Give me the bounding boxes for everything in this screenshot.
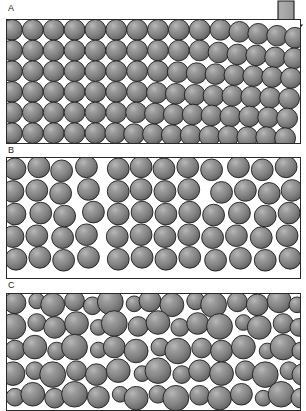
sphere <box>43 123 64 143</box>
sphere <box>179 247 201 269</box>
sphere <box>139 294 161 312</box>
sphere <box>76 224 98 246</box>
sphere <box>107 158 129 180</box>
sphere <box>145 358 171 384</box>
sphere <box>203 85 224 106</box>
sphere <box>7 181 24 203</box>
sphere <box>30 202 52 224</box>
sphere <box>22 82 43 103</box>
sphere <box>173 366 191 384</box>
sphere <box>127 82 148 103</box>
sphere <box>168 20 189 40</box>
sphere <box>190 385 210 405</box>
sphere <box>267 294 291 313</box>
sphere <box>246 294 268 316</box>
sphere <box>270 334 296 360</box>
sphere <box>64 20 85 40</box>
sphere <box>127 61 148 82</box>
sphere <box>178 179 200 201</box>
sphere <box>248 23 269 44</box>
sphere <box>124 339 148 363</box>
sphere <box>199 126 220 143</box>
sphere <box>78 179 100 201</box>
sphere <box>256 127 277 143</box>
sphere <box>192 338 212 358</box>
sphere <box>229 248 251 270</box>
sphere <box>64 40 85 61</box>
sphere <box>208 42 229 63</box>
sphere <box>265 47 286 68</box>
sphere <box>82 201 104 223</box>
sphere <box>254 205 276 227</box>
sphere <box>43 82 64 103</box>
sphere <box>7 340 25 360</box>
sphere <box>186 63 207 84</box>
sphere <box>64 123 85 143</box>
sphere <box>234 180 256 202</box>
sphere <box>227 158 249 178</box>
sphere <box>230 383 252 405</box>
sphere <box>218 126 239 143</box>
sphere <box>22 40 43 61</box>
sphere <box>7 226 24 248</box>
sphere <box>127 40 148 61</box>
panel-label-b: B <box>8 146 14 155</box>
sphere <box>227 44 248 65</box>
sphere <box>106 226 128 248</box>
sphere <box>254 249 276 271</box>
sphere <box>43 61 64 82</box>
sphere <box>107 181 129 203</box>
sphere <box>85 82 106 103</box>
sphere <box>210 20 231 40</box>
sphere <box>128 317 148 337</box>
sphere <box>107 203 129 225</box>
panel-b-loose-random-packing <box>6 157 301 279</box>
sphere <box>171 319 189 337</box>
sphere <box>231 335 255 359</box>
sphere <box>78 247 100 269</box>
sphere <box>163 385 189 410</box>
sphere <box>210 362 234 386</box>
sphere <box>268 381 294 407</box>
sphere <box>179 201 201 223</box>
sphere <box>53 249 75 271</box>
sphere <box>161 125 182 143</box>
sphere <box>228 202 250 224</box>
sphere <box>124 386 148 410</box>
sphere <box>126 102 147 123</box>
sphere <box>43 40 64 61</box>
sphere <box>279 248 300 270</box>
sphere <box>28 314 46 332</box>
sphere <box>237 127 258 143</box>
sphere <box>62 334 88 360</box>
sphere <box>54 205 76 227</box>
sphere <box>106 102 127 123</box>
sphere <box>85 123 106 143</box>
sphere <box>222 85 243 106</box>
sphere <box>28 158 50 178</box>
sphere <box>262 67 283 88</box>
sphere <box>226 225 248 247</box>
panel-label-a: A <box>8 4 14 13</box>
sphere <box>163 104 184 125</box>
sphere <box>124 124 145 143</box>
sphere <box>64 102 85 123</box>
sphere <box>44 317 66 339</box>
sphere <box>67 361 87 381</box>
sphere <box>202 227 224 249</box>
sphere <box>201 105 222 126</box>
sphere <box>208 386 232 410</box>
sphere <box>281 68 300 89</box>
sphere <box>277 108 298 129</box>
sphere <box>180 125 201 143</box>
sphere <box>23 335 47 359</box>
sphere <box>50 183 72 205</box>
sphere <box>76 158 98 178</box>
sphere <box>258 107 279 128</box>
sphere <box>85 102 106 123</box>
sphere <box>258 183 280 205</box>
sphere <box>101 311 127 337</box>
sphere <box>87 386 109 408</box>
sphere <box>205 64 226 85</box>
